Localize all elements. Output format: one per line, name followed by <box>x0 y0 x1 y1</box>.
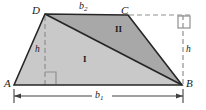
vertex-label-d: D <box>32 5 40 16</box>
region-two-label: II <box>115 25 122 34</box>
trapezoid-figure: A B C D b2 b1 h h I II <box>0 0 206 110</box>
region-one-label: I <box>83 55 87 64</box>
vertex-label-a: A <box>4 78 11 89</box>
right-angle-top-right-mark <box>178 16 190 28</box>
top-base-label-subscript: 2 <box>84 5 88 13</box>
top-base-label: b2 <box>79 1 88 13</box>
height-right-label: h <box>186 45 191 55</box>
vertex-label-b: B <box>186 78 193 89</box>
bottom-base-label-subscript: 1 <box>100 94 104 102</box>
bottom-base-label: b1 <box>95 90 104 102</box>
vertex-label-c: C <box>121 5 128 16</box>
bottom-dimension-arrow-right <box>176 94 183 99</box>
bottom-dimension-arrow-left <box>14 94 21 99</box>
height-left-label: h <box>35 45 40 55</box>
